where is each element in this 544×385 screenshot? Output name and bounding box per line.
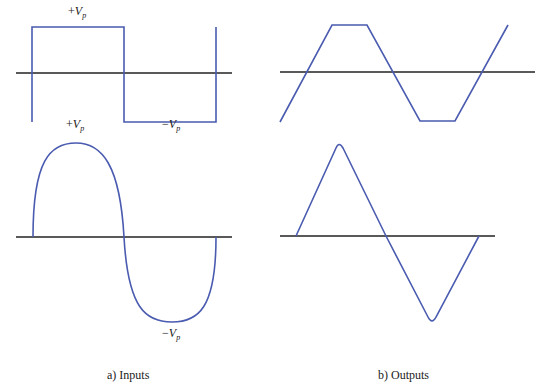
label-sign: + <box>66 117 73 131</box>
caption-inputs: a) Inputs <box>107 368 149 383</box>
label-sub: p <box>176 124 180 133</box>
label-sine-negative-peak: −Vp <box>162 326 180 342</box>
label-sub: p <box>82 11 86 20</box>
panel-output-triangle <box>280 145 495 322</box>
label-sign: − <box>162 326 169 340</box>
caption-outputs: b) Outputs <box>378 368 429 383</box>
panel-input-sine <box>16 143 232 322</box>
sine-wave <box>33 143 216 322</box>
panel-output-trapezoid <box>280 25 535 122</box>
label-sine-positive-peak: +Vp <box>66 117 84 133</box>
label-sign: − <box>162 117 169 131</box>
square-wave <box>32 27 216 122</box>
triangle-wave <box>296 145 479 322</box>
panel-input-square <box>16 27 232 122</box>
label-sub: p <box>80 124 84 133</box>
label-sign: + <box>68 4 75 18</box>
label-square-positive-peak: +Vp <box>68 4 86 20</box>
waveform-figure <box>0 0 544 385</box>
label-sub: p <box>176 333 180 342</box>
trapezoid-wave <box>280 25 508 122</box>
label-square-negative-peak: −Vp <box>162 117 180 133</box>
